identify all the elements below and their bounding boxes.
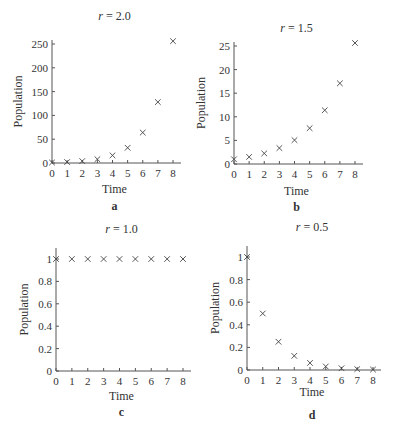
x-tick-label: 2 bbox=[80, 167, 86, 179]
panel-label: a bbox=[112, 199, 118, 213]
x-tick-label: 3 bbox=[292, 374, 298, 386]
x-tick-label: 2 bbox=[276, 374, 282, 386]
data-point-x-marker bbox=[307, 125, 313, 131]
y-tick-label: 0.2 bbox=[38, 343, 52, 355]
x-tick-label: 0 bbox=[231, 168, 237, 180]
x-tick-label: 1 bbox=[246, 168, 252, 180]
y-tick-label: 0 bbox=[238, 364, 244, 376]
x-tick-label: 2 bbox=[262, 168, 268, 180]
x-tick-label: 5 bbox=[307, 168, 313, 180]
y-tick-label: 0.2 bbox=[229, 341, 243, 353]
chart-title: r = 2.0 bbox=[98, 9, 130, 23]
data-point-x-marker bbox=[85, 256, 91, 262]
x-tick-label: 3 bbox=[101, 375, 107, 387]
x-tick-label: 4 bbox=[292, 168, 298, 180]
panel-label: c bbox=[119, 405, 125, 419]
x-tick-label: 1 bbox=[64, 167, 70, 179]
data-point-x-marker bbox=[352, 40, 358, 46]
data-point-x-marker bbox=[117, 256, 123, 262]
charts-canvas: 012345678050100150200250r = 2.0TimePopul… bbox=[0, 0, 399, 438]
data-point-x-marker bbox=[180, 256, 186, 262]
x-axis-label: Time bbox=[300, 385, 325, 399]
y-tick-label: 1 bbox=[47, 253, 53, 265]
x-tick-label: 1 bbox=[69, 375, 75, 387]
x-tick-label: 5 bbox=[125, 167, 131, 179]
data-point-x-marker bbox=[110, 153, 116, 159]
x-tick-label: 0 bbox=[53, 375, 59, 387]
x-tick-label: 8 bbox=[352, 168, 358, 180]
x-tick-label: 4 bbox=[117, 375, 123, 387]
y-tick-label: 0.6 bbox=[229, 296, 243, 308]
data-point-x-marker bbox=[101, 256, 107, 262]
y-axis-label: Population bbox=[208, 282, 222, 334]
data-point-x-marker bbox=[170, 38, 176, 44]
y-axis-label: Population bbox=[11, 75, 25, 127]
data-point-x-marker bbox=[133, 256, 139, 262]
y-tick-label: 5 bbox=[225, 134, 231, 146]
chart-title: r = 0.5 bbox=[296, 220, 328, 234]
y-tick-label: 20 bbox=[219, 64, 231, 76]
chart-panel-b: 0123456780510152025r = 1.5TimePopulation… bbox=[194, 21, 363, 214]
y-tick-label: 25 bbox=[219, 40, 231, 52]
data-point-x-marker bbox=[260, 311, 266, 317]
data-point-x-marker bbox=[322, 107, 328, 113]
y-tick-label: 0.4 bbox=[38, 320, 52, 332]
x-axis-label: Time bbox=[109, 389, 134, 403]
x-axis-label: Time bbox=[102, 182, 127, 196]
y-axis-label: Population bbox=[194, 77, 208, 129]
data-point-x-marker bbox=[292, 137, 298, 143]
x-tick-label: 7 bbox=[155, 167, 161, 179]
x-tick-label: 2 bbox=[85, 375, 91, 387]
panel-label: b bbox=[293, 200, 300, 214]
y-tick-label: 0.8 bbox=[229, 274, 243, 286]
data-point-x-marker bbox=[148, 256, 154, 262]
y-tick-label: 0 bbox=[43, 157, 49, 169]
y-tick-label: 0.6 bbox=[38, 298, 52, 310]
data-point-x-marker bbox=[291, 353, 297, 359]
y-tick-label: 100 bbox=[32, 109, 49, 121]
x-tick-label: 5 bbox=[133, 375, 139, 387]
panel-label: d bbox=[309, 408, 316, 422]
x-tick-label: 6 bbox=[322, 168, 328, 180]
y-tick-label: 0.4 bbox=[229, 319, 243, 331]
chart-panel-a: 012345678050100150200250r = 2.0TimePopul… bbox=[11, 9, 181, 213]
x-tick-label: 6 bbox=[149, 375, 155, 387]
y-tick-label: 0 bbox=[225, 158, 231, 170]
y-tick-label: 50 bbox=[37, 133, 49, 145]
x-tick-label: 3 bbox=[95, 167, 101, 179]
y-axis-label: Population bbox=[17, 283, 31, 335]
y-tick-label: 200 bbox=[32, 62, 49, 74]
data-point-x-marker bbox=[140, 130, 146, 136]
y-tick-label: 150 bbox=[32, 86, 49, 98]
data-point-x-marker bbox=[125, 145, 131, 151]
x-tick-label: 8 bbox=[180, 375, 186, 387]
y-tick-label: 10 bbox=[219, 111, 231, 123]
x-tick-label: 8 bbox=[170, 167, 176, 179]
x-tick-label: 0 bbox=[49, 167, 55, 179]
x-tick-label: 4 bbox=[110, 167, 116, 179]
x-axis-label: Time bbox=[284, 184, 309, 198]
data-point-x-marker bbox=[261, 151, 267, 157]
data-point-x-marker bbox=[155, 99, 161, 105]
y-tick-label: 250 bbox=[32, 38, 49, 50]
data-point-x-marker bbox=[307, 360, 313, 366]
data-point-x-marker bbox=[164, 256, 170, 262]
data-point-x-marker bbox=[277, 145, 283, 151]
x-tick-label: 8 bbox=[370, 374, 376, 386]
x-tick-label: 7 bbox=[164, 375, 170, 387]
data-point-x-marker bbox=[276, 339, 282, 345]
y-tick-label: 1 bbox=[238, 251, 244, 263]
x-tick-label: 3 bbox=[277, 168, 283, 180]
data-point-x-marker bbox=[69, 256, 75, 262]
x-tick-label: 7 bbox=[337, 168, 343, 180]
x-tick-label: 1 bbox=[260, 374, 266, 386]
y-tick-label: 0 bbox=[47, 365, 53, 377]
x-tick-label: 7 bbox=[355, 374, 361, 386]
chart-panel-d: 01234567800.20.40.60.81r = 0.5TimePopula… bbox=[208, 220, 381, 422]
y-tick-label: 0.8 bbox=[38, 275, 52, 287]
data-point-x-marker bbox=[337, 81, 343, 87]
y-tick-label: 15 bbox=[219, 87, 231, 99]
x-tick-label: 6 bbox=[140, 167, 146, 179]
chart-panel-c: 01234567800.20.40.60.81r = 1.0TimePopula… bbox=[17, 222, 191, 419]
x-tick-label: 0 bbox=[244, 374, 250, 386]
